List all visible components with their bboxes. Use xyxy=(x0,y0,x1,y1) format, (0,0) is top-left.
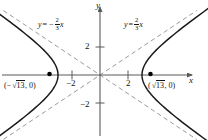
left-focus-point xyxy=(47,72,52,77)
right-focus-comma-zero: , 0) xyxy=(165,81,176,90)
asymptote-negative-equation: y=−23x xyxy=(38,17,63,31)
left-focus-radical: √13 xyxy=(11,82,25,90)
asym-neg-x: x xyxy=(60,20,64,29)
left-focus-comma-zero: , 0) xyxy=(25,81,36,90)
x-axis-label: x xyxy=(189,76,193,85)
asym-pos-x: x xyxy=(139,20,143,29)
graph-canvas xyxy=(0,0,208,140)
left-focus-radicand: 13 xyxy=(16,80,25,90)
left-focus-label: (−√13, 0) xyxy=(4,82,36,90)
right-focus-radicand: 13 xyxy=(156,80,165,90)
right-focus-label: (√13, 0) xyxy=(148,82,175,90)
tick-label-x-pos2: 2 xyxy=(126,79,131,88)
right-focus-point xyxy=(148,72,153,77)
right-focus-radical: √13 xyxy=(151,82,165,90)
tick-label-x-neg2: −2 xyxy=(66,79,76,88)
tick-label-y-neg2: −2 xyxy=(80,100,90,109)
hyperbola-figure: y x −2 2 2 −2 y=−23x y=23x (−√13, 0) (√1… xyxy=(0,0,208,140)
y-axis-label: y xyxy=(96,1,100,10)
tick-label-y-pos2: 2 xyxy=(85,42,90,51)
asymptote-positive-equation: y=23x xyxy=(124,17,143,31)
hyperbola-right-branch xyxy=(142,0,208,140)
